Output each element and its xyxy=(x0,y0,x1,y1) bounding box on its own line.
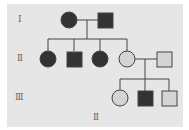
connector-lines xyxy=(48,20,169,91)
individual-III-2 xyxy=(138,91,153,106)
individual-II-5 xyxy=(157,52,172,67)
individual-I-2 xyxy=(98,13,113,28)
individual-III-1 xyxy=(112,90,128,106)
individual-I-1 xyxy=(61,12,77,28)
individual-III-3 xyxy=(162,91,177,106)
individual-II-1 xyxy=(40,51,56,67)
individual-II-4 xyxy=(119,51,135,67)
pedigree-chart xyxy=(0,0,189,130)
individual-II-2 xyxy=(67,52,82,67)
individual-II-3 xyxy=(92,51,108,67)
